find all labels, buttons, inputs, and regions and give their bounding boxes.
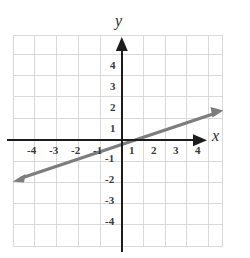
coordinate-plane-figure: x y -4 -3 -2 -1 1 2 3 4 4 3 2 1 -1 -2 -3… (0, 0, 250, 258)
y-tick-label-neg4: -4 (105, 216, 114, 227)
x-tick-label-pos3: 3 (173, 145, 179, 156)
y-axis-arrowhead (116, 37, 128, 51)
x-tick-label-pos2: 2 (151, 145, 157, 156)
y-tick-label-pos3: 3 (110, 81, 116, 92)
x-tick-label-pos1: 1 (129, 145, 135, 156)
x-tick-label-neg3: -3 (49, 145, 58, 156)
y-axis-label: y (115, 13, 122, 29)
y-tick-label-neg2: -2 (105, 174, 114, 185)
x-tick-label-pos4: 4 (195, 145, 201, 156)
y-tick-label-neg1: -1 (105, 153, 114, 164)
y-tick-label-neg3: -3 (105, 195, 114, 206)
x-axis-label: x (212, 128, 219, 144)
x-tick-label-neg2: -2 (71, 145, 80, 156)
x-tick-label-neg1: -1 (93, 145, 102, 156)
x-tick-label-neg4: -4 (27, 145, 36, 156)
y-tick-label-pos4: 4 (110, 60, 116, 71)
line-arrowhead-left (13, 174, 26, 183)
y-tick-label-pos2: 2 (110, 102, 116, 113)
y-tick-label-pos1: 1 (110, 123, 116, 134)
